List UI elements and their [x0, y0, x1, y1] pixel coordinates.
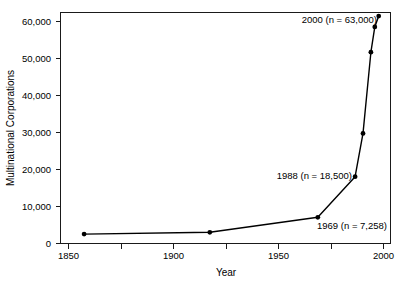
data-point-2000 [376, 14, 381, 19]
plot-frame [61, 13, 391, 244]
y-tick-label-20000: 20,000 [22, 164, 51, 175]
data-point-1998 [372, 25, 377, 30]
annotation-2000: 2000 (n = 63,000) [302, 14, 377, 25]
line-chart: 0 10,000 20,000 30,000 40,000 50,000 60,… [0, 0, 407, 284]
y-tick-label-50000: 50,000 [22, 53, 51, 64]
y-tick-label-10000: 10,000 [22, 201, 51, 212]
y-axis-ticks [56, 22, 61, 244]
x-tick-label-1850: 1850 [58, 250, 79, 261]
y-tick-label-40000: 40,000 [22, 90, 51, 101]
data-point-1988 [353, 174, 358, 179]
x-axis-ticks [69, 244, 384, 249]
y-tick-label-60000: 60,000 [22, 16, 51, 27]
data-point-1969 [315, 215, 320, 220]
series-line-main [84, 16, 379, 234]
data-point-1996 [369, 50, 374, 55]
annotation-1988: 1988 (n = 18,500) [277, 170, 352, 181]
data-point-1850 [82, 232, 87, 237]
y-axis-title: Multinational Corporations [5, 70, 16, 186]
x-tick-label-1950: 1950 [268, 250, 289, 261]
x-tick-label-1900: 1900 [163, 250, 184, 261]
x-axis-title: Year [216, 267, 237, 278]
y-tick-label-0: 0 [46, 238, 51, 249]
data-point-1992 [361, 131, 366, 136]
y-tick-label-30000: 30,000 [22, 127, 51, 138]
data-point-1914 [207, 230, 212, 235]
chart-figure: 0 10,000 20,000 30,000 40,000 50,000 60,… [0, 0, 407, 284]
x-tick-label-2000: 2000 [373, 250, 394, 261]
series-markers [82, 14, 381, 237]
annotation-1969: 1969 (n = 7,258) [317, 220, 387, 231]
